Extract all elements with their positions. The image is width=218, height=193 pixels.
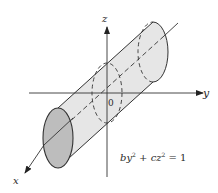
- x-axis-label: x: [13, 175, 19, 186]
- cylinder-equation: by2 + cz2 = 1: [120, 151, 186, 163]
- x-axis: [25, 145, 44, 173]
- origin-label: 0: [108, 98, 114, 108]
- front-end-cap: [43, 108, 73, 168]
- x-axis-back: [164, 23, 178, 36]
- z-axis-label: z: [101, 13, 108, 24]
- y-axis-label: y: [202, 87, 210, 100]
- elliptic-cylinder-diagram: z y x 0 by2 + cz2 = 1: [0, 0, 218, 193]
